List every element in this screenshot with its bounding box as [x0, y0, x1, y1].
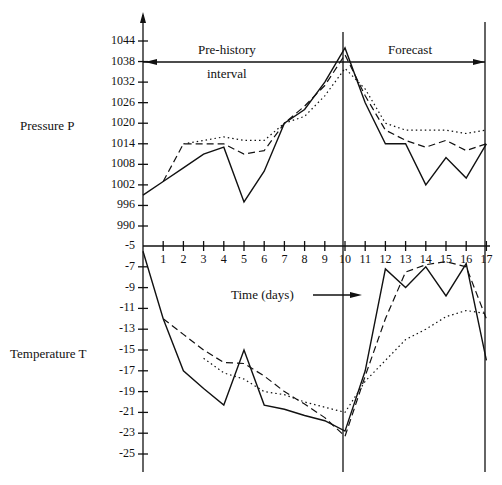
y-tick-label: 1032	[95, 74, 135, 89]
y-tick-label: -21	[95, 404, 135, 419]
x-tick-label: 17	[476, 252, 496, 267]
x-tick-label: 7	[274, 252, 294, 267]
x-tick-label: 8	[295, 252, 315, 267]
y-tick-label: -7	[95, 259, 135, 274]
x-tick-label: 6	[254, 252, 274, 267]
x-tick-label: 10	[335, 252, 355, 267]
y-tick-label: 1044	[95, 33, 135, 48]
y-tick-label: 1002	[95, 177, 135, 192]
x-tick-label: 13	[396, 252, 416, 267]
y-tick-label: 1014	[95, 136, 135, 151]
y-tick-label: -17	[95, 363, 135, 378]
interval-label: interval	[207, 66, 247, 82]
series-group	[143, 48, 486, 436]
prehistory-label: Pre-history	[198, 42, 256, 58]
axes	[138, 12, 490, 472]
x-tick-label: 2	[173, 252, 193, 267]
y-tick-label: -5	[95, 238, 135, 253]
forecast-label: Forecast	[388, 42, 432, 58]
time-axis-label: Time (days)	[231, 287, 294, 303]
y-tick-label: -11	[95, 300, 135, 315]
y-tick-label: -23	[95, 425, 135, 440]
x-tick-label: 4	[214, 252, 234, 267]
pressure-actual-line	[143, 48, 486, 202]
x-tick-label: 9	[315, 252, 335, 267]
x-tick-label: 5	[234, 252, 254, 267]
y-tick-label: 1020	[95, 115, 135, 130]
x-tick-label: 15	[436, 252, 456, 267]
temperature-model-1-line	[163, 262, 486, 437]
y-tick-label: -15	[95, 342, 135, 357]
time-arrow-icon	[350, 292, 362, 298]
x-tick-label: 14	[416, 252, 436, 267]
y-axis-arrow-icon	[140, 12, 146, 23]
temperature-model-2-line	[204, 311, 487, 413]
y-tick-label: 1026	[95, 95, 135, 110]
x-tick-label: 1	[153, 252, 173, 267]
y-tick-label: -19	[95, 384, 135, 399]
y-tick-label: 1038	[95, 54, 135, 69]
x-tick-label: 11	[355, 252, 375, 267]
temperature-axis-label: Temperature T	[10, 346, 86, 362]
x-tick-label: 12	[375, 252, 395, 267]
y-tick-label: 990	[95, 218, 135, 233]
chart-canvas	[0, 0, 502, 485]
y-tick-label: -13	[95, 321, 135, 336]
pressure-axis-label: Pressure P	[20, 118, 75, 134]
x-tick-label: 3	[194, 252, 214, 267]
y-tick-label: -9	[95, 280, 135, 295]
y-tick-label: -25	[95, 446, 135, 461]
right-arrow-icon	[473, 59, 485, 65]
y-tick-label: 1008	[95, 156, 135, 171]
y-tick-label: 996	[95, 197, 135, 212]
x-tick-label: 16	[456, 252, 476, 267]
